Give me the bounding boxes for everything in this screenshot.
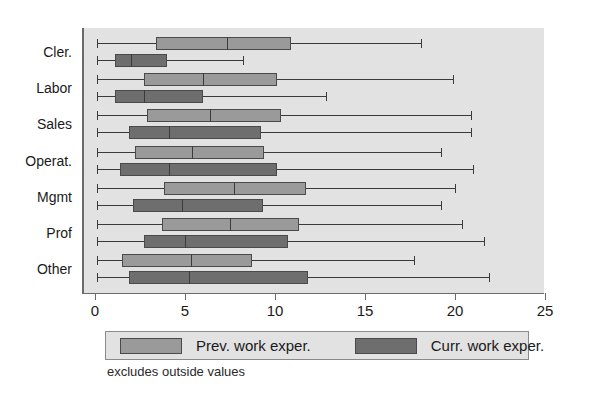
x-tick: [365, 293, 366, 300]
median-line: [230, 218, 231, 231]
median-line: [189, 271, 190, 284]
whisker-cap-low: [97, 128, 98, 137]
whisker-high: [264, 152, 440, 153]
whisker-cap-high: [421, 39, 422, 48]
box-curr-labor: [84, 90, 544, 103]
whisker-cap-high: [455, 184, 456, 193]
boxplot-group-other: [84, 254, 544, 290]
x-tick: [185, 293, 186, 300]
whisker-high: [308, 277, 490, 278]
x-tick-label: 0: [91, 302, 99, 319]
whisker-low: [97, 277, 129, 278]
legend-label-prev: Prev. work exper.: [196, 337, 311, 354]
box-curr-sales: [84, 126, 544, 139]
box-prev-operat: [84, 146, 544, 159]
whisker-high: [167, 60, 243, 61]
whisker-high: [263, 205, 441, 206]
whisker-low: [97, 115, 147, 116]
x-tick-label: 5: [181, 302, 189, 319]
whisker-cap-high: [243, 56, 244, 65]
whisker-low: [97, 60, 115, 61]
x-tick: [275, 293, 276, 300]
whisker-high: [203, 96, 325, 97]
whisker-high: [299, 224, 463, 225]
whisker-high: [261, 132, 472, 133]
y-axis-label-labor: Labor: [0, 80, 72, 96]
whisker-high: [252, 260, 414, 261]
iqr-box: [115, 90, 203, 103]
whisker-cap-low: [97, 256, 98, 265]
y-axis-labels: Cler.LaborSalesOperat.MgmtProfOther: [0, 0, 78, 397]
legend: Prev. work exper. Curr. work exper.: [105, 331, 529, 360]
box-curr-cler: [84, 54, 544, 67]
whisker-cap-high: [453, 75, 454, 84]
boxplot-group-sales: [84, 109, 544, 145]
box-prev-other: [84, 254, 544, 267]
whisker-low: [97, 224, 162, 225]
whisker-high: [306, 188, 455, 189]
box-prev-labor: [84, 73, 544, 86]
plot-area: [82, 28, 544, 293]
boxplot-group-mgmt: [84, 182, 544, 218]
whisker-low: [97, 241, 144, 242]
whisker-cap-low: [97, 111, 98, 120]
whisker-cap-low: [97, 237, 98, 246]
box-curr-other: [84, 271, 544, 284]
legend-entry-curr: Curr. work exper.: [355, 337, 544, 354]
whisker-cap-low: [97, 39, 98, 48]
iqr-box: [133, 199, 263, 212]
x-tick: [455, 293, 456, 300]
median-line: [169, 126, 170, 139]
x-tick: [95, 293, 96, 300]
whisker-cap-high: [326, 92, 327, 101]
whisker-high: [277, 79, 453, 80]
whisker-cap-low: [97, 75, 98, 84]
whisker-cap-high: [471, 111, 472, 120]
legend-label-curr: Curr. work exper.: [431, 337, 544, 354]
whisker-low: [97, 79, 144, 80]
x-tick-label: 10: [267, 302, 284, 319]
legend-entry-prev: Prev. work exper.: [120, 337, 311, 354]
iqr-box: [147, 109, 280, 122]
median-line: [192, 146, 193, 159]
box-curr-prof: [84, 235, 544, 248]
box-curr-mgmt: [84, 199, 544, 212]
whisker-high: [277, 169, 473, 170]
iqr-box: [144, 235, 288, 248]
x-tick-label: 15: [357, 302, 374, 319]
iqr-box: [122, 254, 252, 267]
x-axis-line: [82, 293, 544, 294]
boxplot-group-prof: [84, 218, 544, 254]
whisker-cap-low: [97, 220, 98, 229]
x-tick: [545, 293, 546, 300]
whisker-cap-high: [489, 273, 490, 282]
whisker-low: [97, 132, 129, 133]
iqr-box: [156, 37, 291, 50]
iqr-box: [144, 73, 277, 86]
y-axis-label-mgmt: Mgmt: [0, 189, 72, 205]
whisker-cap-high: [441, 148, 442, 157]
whisker-cap-high: [473, 165, 474, 174]
whisker-high: [291, 43, 421, 44]
whisker-high: [288, 241, 484, 242]
median-line: [227, 37, 228, 50]
median-line: [234, 182, 235, 195]
median-line: [210, 109, 211, 122]
median-line: [144, 90, 145, 103]
y-axis-label-operat: Operat.: [0, 153, 72, 169]
whisker-cap-low: [97, 92, 98, 101]
iqr-box: [135, 146, 265, 159]
whisker-cap-high: [441, 201, 442, 210]
legend-swatch-prev: [120, 338, 182, 354]
y-axis-label-sales: Sales: [0, 116, 72, 132]
box-curr-operat: [84, 163, 544, 176]
whisker-low: [97, 260, 122, 261]
iqr-box: [120, 163, 277, 176]
boxplot-group-cler: [84, 37, 544, 73]
box-prev-sales: [84, 109, 544, 122]
iqr-box: [115, 54, 167, 67]
whisker-cap-high: [471, 128, 472, 137]
y-axis-label-prof: Prof: [0, 225, 72, 241]
median-line: [131, 54, 132, 67]
y-axis-label-cler: Cler.: [0, 44, 72, 60]
